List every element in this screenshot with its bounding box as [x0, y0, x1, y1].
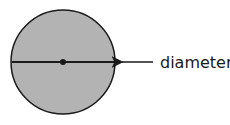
center-point: [60, 59, 66, 65]
diameter-label: diameter: [160, 53, 230, 72]
diameter-diagram: diameter: [0, 0, 230, 125]
